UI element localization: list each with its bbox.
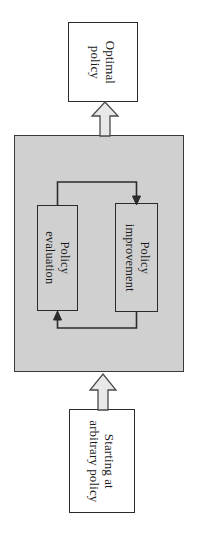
policy-evaluation-label: Policy evaluation (43, 231, 73, 284)
panel-to-optimal-block-arrow (92, 102, 118, 136)
optimal-policy-label: Optimal policy (88, 40, 119, 83)
starting-policy-label-line1: Starting at (102, 420, 117, 502)
policy-improvement-label: Policy improvement (122, 224, 152, 292)
gpi-diagram: Optimal policy Policy evaluation Policy … (0, 0, 197, 536)
starting-policy-box: Starting at arbitrary policy (69, 409, 135, 513)
optimal-policy-label-line1: Optimal (103, 40, 118, 83)
optimal-policy-box: Optimal policy (68, 22, 138, 102)
policy-evaluation-box: Policy evaluation (37, 205, 78, 311)
start-to-panel-block-arrow (90, 374, 116, 410)
policy-evaluation-label-line2: evaluation (43, 231, 58, 284)
starting-policy-label-line2: arbitrary policy (87, 420, 102, 502)
policy-improvement-box: Policy improvement (115, 203, 158, 312)
starting-policy-label: Starting at arbitrary policy (87, 420, 118, 502)
policy-evaluation-label-line1: Policy (58, 231, 73, 284)
policy-improvement-label-line2: improvement (122, 224, 137, 292)
policy-improvement-label-line1: Policy (137, 224, 152, 292)
optimal-policy-label-line2: policy (88, 40, 103, 83)
